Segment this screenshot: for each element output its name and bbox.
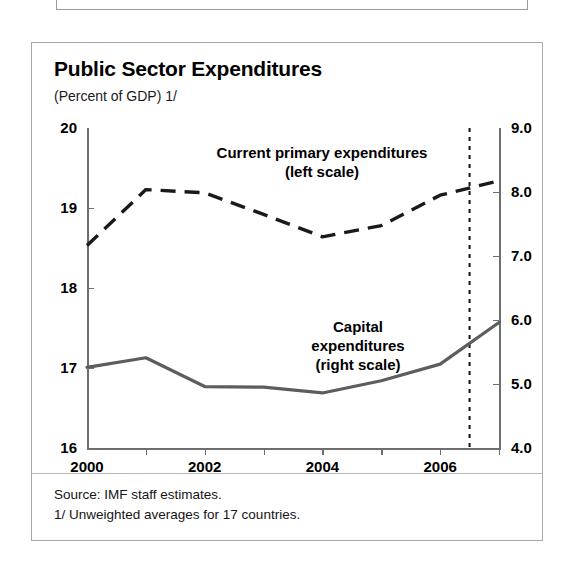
right-axis-label: 4.0: [511, 440, 532, 455]
clipped-top-text-box: [56, 0, 528, 10]
page-title: Public Sector Expenditures: [54, 57, 322, 81]
footnotes: Source: IMF staff estimates. 1/ Unweight…: [54, 485, 300, 524]
left-axis-label: 17: [60, 360, 77, 375]
plot-area: Current primary expenditures (left scale…: [87, 128, 501, 449]
right-axis-label: 6.0: [511, 312, 532, 327]
left-axis-label: 16: [60, 440, 77, 455]
left-axis-label: 18: [60, 280, 77, 295]
x-axis-tick: [499, 448, 500, 455]
left-axis-tick: [87, 288, 94, 289]
x-axis-tick: [205, 448, 206, 455]
right-axis-label: 7.0: [511, 248, 532, 263]
chart-subtitle: (Percent of GDP) 1/: [54, 88, 177, 104]
chart-figure: Public Sector Expenditures (Percent of G…: [31, 42, 543, 541]
right-axis-label: 9.0: [511, 120, 532, 135]
current-primary-expenditures-line: [87, 181, 499, 246]
right-axis-tick: [493, 192, 500, 193]
left-axis-tick: [87, 208, 94, 209]
x-axis-tick: [146, 448, 147, 455]
footer-divider: [32, 473, 542, 474]
left-axis-tick: [87, 368, 94, 369]
x-axis-tick: [440, 448, 441, 455]
right-axis-tick: [493, 256, 500, 257]
right-axis-tick: [493, 320, 500, 321]
right-axis-label: 8.0: [511, 184, 532, 199]
x-axis-tick: [322, 448, 323, 455]
x-axis-tick: [381, 448, 382, 455]
source-note: Source: IMF staff estimates.: [54, 485, 300, 505]
right-axis-label: 5.0: [511, 376, 532, 391]
unweighted-average-note: 1/ Unweighted averages for 17 countries.: [54, 505, 300, 525]
capital-series-label: Capital expenditures (right scale): [283, 318, 433, 374]
left-axis-label: 19: [60, 200, 77, 215]
x-axis-tick: [264, 448, 265, 455]
left-axis-label: 20: [60, 120, 77, 135]
current-series-label: Current primary expenditures (left scale…: [187, 144, 457, 182]
right-axis-tick: [493, 384, 500, 385]
